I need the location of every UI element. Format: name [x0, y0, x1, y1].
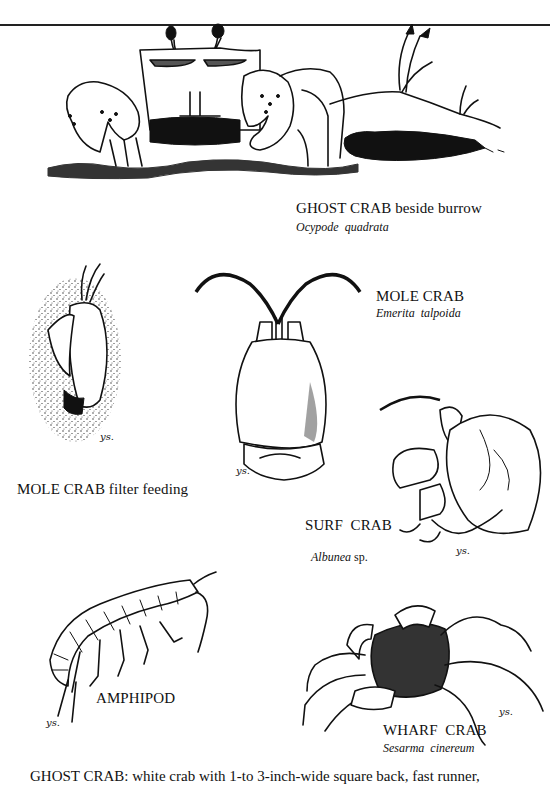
wharf-crab-label: WHARF CRAB: [383, 722, 487, 739]
artist-signature: ys.: [99, 431, 114, 442]
surf-crab-genus: Albunea: [311, 550, 351, 564]
ghost-crab-illustration: [40, 20, 520, 190]
body-caption: GHOST CRAB: white crab with 1-to 3-inch-…: [30, 768, 480, 785]
surf-crab-illustration: ys.: [370, 390, 550, 560]
svg-text:ys.: ys.: [455, 545, 470, 556]
surf-crab-species-suffix: sp.: [351, 550, 368, 564]
mole-crab-feeding-illustration: ys.: [20, 250, 130, 450]
mole-crab-scientific-name: Emerita talpoida: [376, 306, 461, 320]
svg-text:ys.: ys.: [235, 465, 250, 476]
surf-crab-scientific-name: Albunea sp.: [305, 536, 368, 564]
surf-crab-label: SURF CRAB: [305, 517, 392, 534]
wharf-crab-scientific-name: Sesarma cinereum: [383, 741, 475, 755]
ghost-crab-label: GHOST CRAB beside burrow: [296, 200, 482, 217]
svg-text:ys.: ys.: [45, 717, 60, 728]
mole-crab-illustration: ys.: [190, 262, 370, 482]
mole-crab-feeding-label: MOLE CRAB filter feeding: [17, 481, 188, 498]
ghost-crab-scientific-name: Ocypode quadrata: [296, 220, 389, 234]
amphipod-label: AMPHIPOD: [96, 690, 175, 707]
mole-crab-label: MOLE CRAB: [376, 288, 464, 305]
svg-text:ys.: ys.: [498, 706, 513, 717]
